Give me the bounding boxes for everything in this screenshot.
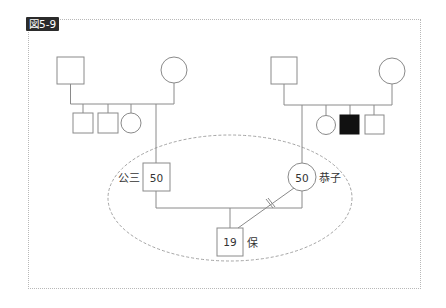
pedigree-diagram: 公三 50 50 恭子 19 保 bbox=[0, 0, 446, 308]
father-name-label: 公三 bbox=[118, 172, 140, 185]
father-age-label: 50 bbox=[150, 172, 163, 184]
right-sibling-2-affected-square bbox=[340, 115, 359, 134]
left-sibling-1-square bbox=[73, 113, 93, 133]
child-name-label: 保 bbox=[247, 236, 258, 250]
left-grandfather-square bbox=[57, 57, 84, 84]
left-grandmother-circle bbox=[161, 57, 187, 83]
mother-name-label: 恭子 bbox=[319, 172, 341, 185]
mother-age-label: 50 bbox=[295, 172, 308, 184]
left-sibling-3-circle bbox=[121, 113, 141, 133]
left-sibling-2-square bbox=[98, 113, 118, 133]
right-grandfather-square bbox=[271, 57, 297, 84]
right-grandmother-circle bbox=[379, 58, 405, 84]
right-sibling-3-square bbox=[365, 115, 384, 134]
right-sibling-1-circle bbox=[317, 116, 336, 135]
child-age-label: 19 bbox=[223, 236, 236, 248]
